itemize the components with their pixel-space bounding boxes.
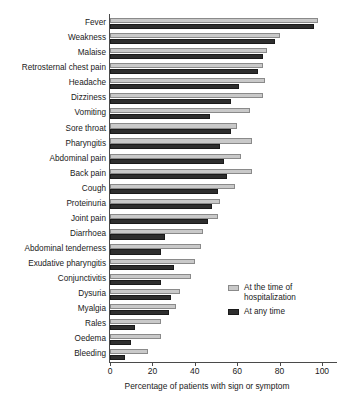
bar-at-hospitalization: [110, 184, 235, 189]
category-label: Headache: [69, 79, 106, 87]
x-tick-label: 0: [108, 367, 113, 376]
chart-row: Oedema: [110, 332, 322, 347]
chart-row: Bleeding: [110, 347, 322, 362]
x-tick-label: 100: [315, 367, 329, 376]
bar-at-hospitalization: [110, 244, 201, 249]
legend-item: At the time of hospitalization: [228, 283, 344, 302]
chart-row: Sore throat: [110, 121, 322, 136]
chart-row: Vomiting: [110, 106, 322, 121]
bar-at-any-time: [110, 340, 131, 345]
bar-at-hospitalization: [110, 259, 195, 264]
x-tick-label: 60: [232, 367, 241, 376]
chart-row: Pharyngitis: [110, 136, 322, 151]
bar-at-any-time: [110, 249, 161, 254]
bar-at-hospitalization: [110, 33, 280, 38]
bar-at-any-time: [110, 24, 314, 29]
bar-at-any-time: [110, 84, 239, 89]
category-label: Bleeding: [74, 350, 106, 358]
category-label: Abdominal pain: [50, 155, 106, 163]
bar-at-any-time: [110, 204, 212, 209]
bar-at-any-time: [110, 295, 171, 300]
chart-row: Joint pain: [110, 212, 322, 227]
bar-at-hospitalization: [110, 289, 180, 294]
category-label: Weakness: [68, 34, 106, 42]
category-label: Vomiting: [75, 109, 106, 117]
category-label: Back pain: [70, 170, 106, 178]
bar-at-hospitalization: [110, 169, 252, 174]
bar-at-any-time: [110, 355, 125, 360]
chart-row: Retrosternal chest pain: [110, 61, 322, 76]
bar-at-any-time: [110, 310, 169, 315]
bar-at-any-time: [110, 219, 208, 224]
bar-at-hospitalization: [110, 63, 263, 68]
bar-at-hospitalization: [110, 93, 263, 98]
bar-at-hospitalization: [110, 214, 218, 219]
bar-at-hospitalization: [110, 304, 176, 309]
bar-at-any-time: [110, 265, 174, 270]
bar-at-any-time: [110, 189, 218, 194]
category-label: Rales: [85, 320, 106, 328]
bar-at-hospitalization: [110, 123, 237, 128]
bar-at-hospitalization: [110, 48, 267, 53]
bar-at-hospitalization: [110, 18, 318, 23]
bar-at-any-time: [110, 99, 231, 104]
category-label: Conjunctivitis: [58, 275, 106, 283]
bar-at-any-time: [110, 234, 165, 239]
bar-at-any-time: [110, 114, 210, 119]
category-label: Retrosternal chest pain: [22, 64, 106, 72]
bar-at-any-time: [110, 144, 220, 149]
bar-chart: FeverWeaknessMalaiseRetrosternal chest p…: [0, 0, 348, 411]
category-label: Malaise: [78, 49, 106, 57]
chart-row: Fever: [110, 16, 322, 31]
x-axis-title: Percentage of patients with sign or symp…: [0, 381, 348, 391]
chart-row: Headache: [110, 76, 322, 91]
bar-at-hospitalization: [110, 78, 265, 83]
category-label: Joint pain: [71, 215, 106, 223]
bar-at-hospitalization: [110, 349, 148, 354]
bar-at-any-time: [110, 39, 275, 44]
chart-row: Dizziness: [110, 91, 322, 106]
x-tick-label: 20: [148, 367, 157, 376]
bar-at-any-time: [110, 325, 135, 330]
category-label: Diarrhoea: [70, 230, 106, 238]
chart-row: Diarrhoea: [110, 227, 322, 242]
category-label: Cough: [82, 185, 106, 193]
legend: At the time of hospitalizationAt any tim…: [228, 283, 344, 322]
chart-row: Abdominal tenderness: [110, 242, 322, 257]
x-tick-label: 40: [190, 367, 199, 376]
chart-row: Proteinuria: [110, 197, 322, 212]
bar-at-any-time: [110, 69, 258, 74]
category-label: Abdominal tenderness: [25, 245, 106, 253]
bar-at-any-time: [110, 54, 263, 59]
bar-at-any-time: [110, 280, 161, 285]
x-tick-label: 80: [275, 367, 284, 376]
bar-at-hospitalization: [110, 229, 203, 234]
category-label: Dysuria: [78, 290, 106, 298]
legend-item: At any time: [228, 307, 344, 317]
chart-row: Cough: [110, 181, 322, 196]
bar-at-any-time: [110, 174, 227, 179]
category-label: Dizziness: [71, 94, 106, 102]
bar-at-hospitalization: [110, 138, 252, 143]
bar-at-hospitalization: [110, 334, 161, 339]
chart-row: Abdominal pain: [110, 151, 322, 166]
legend-swatch-dark: [228, 309, 239, 315]
legend-swatch-light: [228, 285, 239, 291]
category-label: Myalgia: [78, 305, 106, 313]
category-label: Sore throat: [65, 125, 106, 133]
x-axis-line: [109, 362, 337, 363]
x-axis-title-text: Percentage of patients with sign or symp…: [59, 381, 290, 391]
chart-row: Exudative pharyngitis: [110, 257, 322, 272]
legend-label: At the time of hospitalization: [244, 283, 296, 302]
category-label: Oedema: [75, 335, 106, 343]
chart-row: Malaise: [110, 46, 322, 61]
legend-label: At any time: [244, 307, 285, 317]
category-label: Proteinuria: [66, 200, 106, 208]
chart-row: Weakness: [110, 31, 322, 46]
bar-at-hospitalization: [110, 108, 250, 113]
bar-at-any-time: [110, 129, 231, 134]
bar-at-hospitalization: [110, 199, 220, 204]
chart-row: Back pain: [110, 166, 322, 181]
bar-at-any-time: [110, 159, 224, 164]
category-label: Fever: [85, 19, 106, 27]
